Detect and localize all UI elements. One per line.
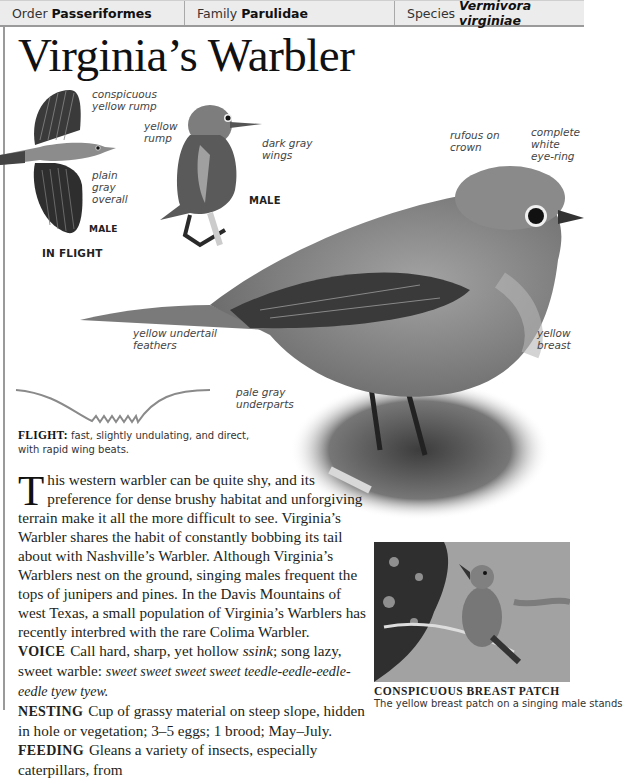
species-label: Species — [407, 6, 455, 21]
flight-label: FLIGHT: — [18, 429, 68, 441]
family-cell: Family Parulidae — [185, 1, 395, 25]
label-rufous-crown: rufous on crown — [450, 129, 500, 153]
photo-caption-title: CONSPICUOUS BREAST PATCH — [374, 685, 560, 697]
photo-caption-text: The yellow breast patch on a singing mal… — [374, 698, 589, 709]
label-complete-white-eye-ring: complete white eye-ring — [531, 126, 580, 162]
feeding-section: FEEDINGGleans a variety of insects, espe… — [18, 740, 370, 779]
order-label: Order — [12, 6, 48, 21]
order-value: Passeriformes — [52, 6, 152, 21]
label-conspicuous-yellow-rump: conspicuous yellow rump — [92, 88, 157, 112]
order-cell: Order Passeriformes — [0, 1, 185, 25]
species-cell: Species Vermivora virginiae — [395, 1, 584, 25]
label-dark-gray-wings: dark gray wings — [262, 137, 312, 161]
voice-text: Call hard, sharp, yet hollow — [70, 642, 243, 659]
species-description: This western warbler can be quite shy, a… — [18, 470, 370, 779]
intro-paragraph: This western warbler can be quite shy, a… — [18, 470, 370, 641]
feeding-label: FEEDING — [18, 743, 84, 758]
label-pale-gray-underparts: pale gray underparts — [236, 386, 294, 410]
label-yellow-breast: yellow breast — [537, 327, 571, 351]
taxonomy-header: Order Passeriformes Family Parulidae Spe… — [0, 0, 584, 27]
singing-male-photo — [374, 542, 570, 682]
flight-pattern-diagram — [14, 388, 214, 428]
family-label: Family — [197, 6, 237, 21]
nesting-label: NESTING — [18, 704, 83, 719]
species-value: Vermivora virginiae — [459, 0, 584, 28]
drop-cap: T — [18, 474, 44, 508]
voice-label: VOICE — [18, 644, 65, 659]
family-value: Parulidae — [241, 6, 308, 21]
voice-call: ssink — [243, 642, 273, 659]
page-title: Virginia’s Warbler — [18, 28, 354, 82]
singing-male-photo-image — [374, 542, 570, 682]
voice-section: VOICECall hard, sharp, yet hollow ssink;… — [18, 641, 370, 701]
nesting-section: NESTINGCup of grassy material on steep s… — [18, 701, 370, 740]
flight-caption: FLIGHT: fast, slightly undulating, and d… — [18, 428, 268, 457]
label-yellow-undertail-feathers: yellow undertail feathers — [133, 327, 217, 351]
intro-text: his western warbler can be quite shy, an… — [18, 471, 366, 640]
label-yellow-rump: yellow rump — [144, 120, 178, 144]
